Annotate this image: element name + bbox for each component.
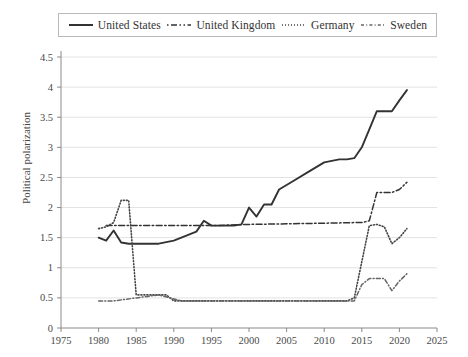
svg-text:3: 3 xyxy=(48,142,53,153)
svg-text:2015: 2015 xyxy=(351,335,372,346)
svg-text:4: 4 xyxy=(48,82,54,93)
svg-text:1980: 1980 xyxy=(88,335,109,346)
series-line-sweden xyxy=(99,274,407,301)
svg-text:1.5: 1.5 xyxy=(40,232,53,243)
series-line-united-kingdom xyxy=(106,182,407,225)
series-line-united-states xyxy=(99,90,407,244)
svg-text:2005: 2005 xyxy=(276,335,297,346)
svg-text:2.5: 2.5 xyxy=(40,172,53,183)
svg-text:2025: 2025 xyxy=(427,335,448,346)
svg-text:2010: 2010 xyxy=(314,335,335,346)
svg-text:2: 2 xyxy=(48,202,53,213)
svg-text:1995: 1995 xyxy=(201,335,222,346)
svg-text:0: 0 xyxy=(48,323,53,334)
svg-text:4.5: 4.5 xyxy=(40,52,53,63)
y-axis-ticks: 4.543.532.521.510.50 xyxy=(40,52,61,334)
svg-text:1985: 1985 xyxy=(126,335,147,346)
svg-text:1975: 1975 xyxy=(51,335,72,346)
svg-text:0.5: 0.5 xyxy=(40,292,53,303)
svg-text:1: 1 xyxy=(48,262,53,273)
plot-area: 4.543.532.521.510.50 1975198019851990199… xyxy=(0,0,468,357)
svg-text:1990: 1990 xyxy=(163,335,184,346)
data-series-group xyxy=(99,90,407,301)
svg-text:2000: 2000 xyxy=(239,335,260,346)
political-polarization-chart: United States United Kingdom Germany Swe… xyxy=(0,0,468,357)
svg-text:2020: 2020 xyxy=(389,335,410,346)
x-axis-ticks: 1975198019851990199520002005201020152020… xyxy=(51,328,448,346)
gridlines xyxy=(61,57,437,298)
svg-text:3.5: 3.5 xyxy=(40,112,53,123)
